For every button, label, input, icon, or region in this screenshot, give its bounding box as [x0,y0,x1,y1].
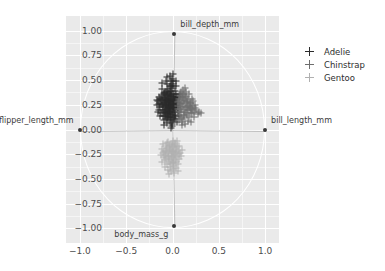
legend-plus-marker-icon [304,46,315,57]
scatter-point-gentoo [174,167,181,174]
scatter-point-gentoo [178,146,185,153]
legend-item-label: Gentoo [324,73,355,83]
x-tick-label: −1.0 [60,246,100,256]
y-tick-label: 0.00 [58,125,102,135]
y-tick-label: 0.50 [58,75,102,85]
figure-suptitle [0,0,385,4]
loading-label-bill_depth_mm: bill_depth_mm [180,20,239,29]
scatter-point-chinstrap [180,91,187,98]
scatter-point-gentoo [159,159,166,166]
legend: AdelieChinstrapGentoo [300,41,371,88]
scatter-point-adelie [163,77,170,84]
legend-plus-marker-icon [304,72,315,83]
y-tick-label: 0.25 [58,100,102,110]
loading-label-bill_length_mm: bill_length_mm [271,116,332,125]
scatter-point-adelie [173,77,180,84]
scatter-point-adelie [161,113,168,120]
y-tick-label: −0.25 [58,149,102,159]
loading-label-flipper_length_mm: flipper_length_mm [0,116,74,125]
scatter-point-adelie [155,108,162,115]
scatter-point-chinstrap [187,118,194,125]
legend-item-label: Adelie [324,47,350,57]
scatter-point-adelie [161,122,168,129]
y-tick-label: 0.75 [58,50,102,60]
scatter-point-chinstrap [185,102,192,109]
scatter-point-gentoo [171,149,178,156]
x-tick-label: 0.5 [199,246,239,256]
scatter-point-gentoo [165,171,172,178]
x-tick-label: −0.5 [106,246,146,256]
y-tick-label: −0.50 [58,174,102,184]
scatter-point-gentoo [157,151,164,158]
scatter-point-gentoo [178,153,185,160]
scatter-point-adelie [154,97,161,104]
loading-arrow-tip [263,128,267,132]
legend-item-chinstrap[interactable]: Chinstrap [304,58,365,71]
x-tick-label: 1.0 [245,246,285,256]
loading-arrow-tip [172,32,176,36]
legend-item-adelie[interactable]: Adelie [304,45,365,58]
y-tick-label: −0.75 [58,199,102,209]
loading-label-body_mass_g: body_mass_g [114,230,168,239]
pca-biplot-figure: 1.000.750.500.250.00−0.25−0.50−0.75−1.00… [0,0,385,271]
scatter-point-gentoo [160,141,167,148]
legend-plus-marker-icon [304,59,315,70]
y-tick-label: 1.00 [58,26,102,36]
legend-item-label: Chinstrap [324,60,365,70]
y-tick-label: −1.00 [58,223,102,233]
x-tick-label: 0.0 [153,246,193,256]
loading-arrow-tip [172,224,176,228]
legend-item-gentoo[interactable]: Gentoo [304,71,365,84]
scatter-point-chinstrap [197,110,204,117]
